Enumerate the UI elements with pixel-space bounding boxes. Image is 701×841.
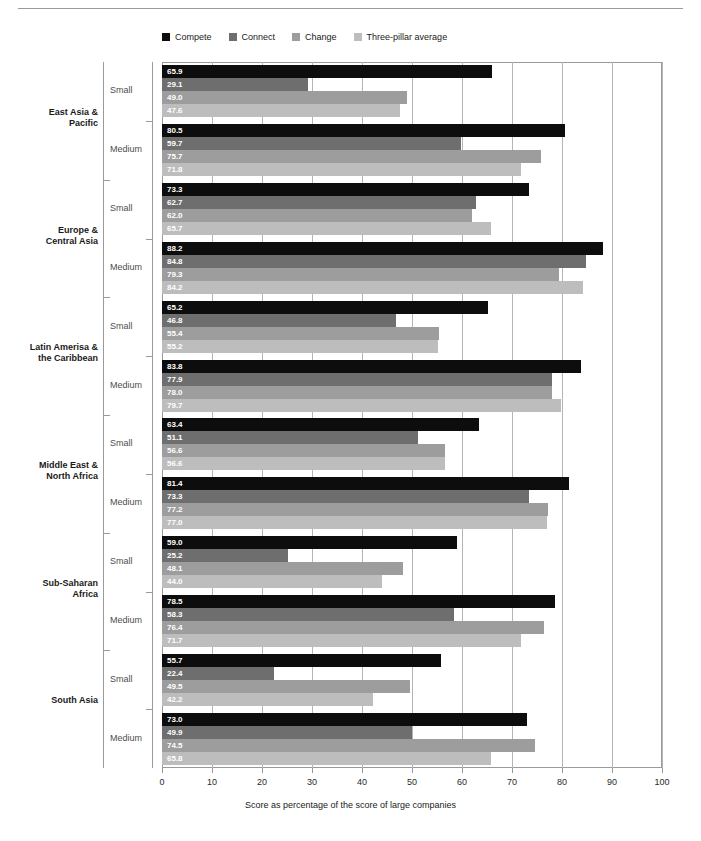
bar-row: 59.0 [162, 536, 662, 549]
bar-row: 56.6 [162, 444, 662, 457]
bar-connect [162, 137, 461, 150]
bar-three-pillar-average [162, 399, 561, 412]
bar-value-label: 47.6 [167, 104, 183, 117]
bar-change [162, 562, 403, 575]
region-label: Europe &Central Asia [0, 225, 98, 247]
size-tick [146, 474, 153, 475]
size-axis-line [152, 62, 153, 768]
bar-value-label: 78.0 [167, 386, 183, 399]
bar-three-pillar-average [162, 163, 521, 176]
bar-row: 74.5 [162, 739, 662, 752]
bar-value-label: 59.7 [167, 137, 183, 150]
bar-row: 81.4 [162, 477, 662, 490]
bar-row: 56.6 [162, 457, 662, 470]
x-tick-label: 80 [542, 777, 582, 787]
bar-connect [162, 78, 308, 91]
bar-compete [162, 124, 565, 137]
x-tick-label: 100 [642, 777, 682, 787]
x-tick [512, 768, 513, 773]
bar-value-label: 48.1 [167, 562, 183, 575]
bar-value-label: 83.8 [167, 360, 183, 373]
legend-swatch-icon [162, 33, 170, 41]
bar-value-label: 55.2 [167, 340, 183, 353]
x-tick [562, 768, 563, 773]
bar-connect [162, 373, 552, 386]
size-tick [146, 356, 153, 357]
bar-value-label: 88.2 [167, 242, 183, 255]
bar-value-label: 65.8 [167, 752, 183, 765]
x-tick [312, 768, 313, 773]
bar-change [162, 386, 552, 399]
bar-change [162, 91, 407, 104]
bar-value-label: 44.0 [167, 575, 183, 588]
bar-value-label: 62.7 [167, 196, 183, 209]
bar-row: 59.7 [162, 137, 662, 150]
bar-row: 84.2 [162, 281, 662, 294]
x-tick [362, 768, 363, 773]
bar-three-pillar-average [162, 752, 491, 765]
bar-compete [162, 477, 569, 490]
bar-row: 25.2 [162, 549, 662, 562]
bar-value-label: 49.9 [167, 726, 183, 739]
bar-change [162, 739, 535, 752]
bar-row: 58.3 [162, 608, 662, 621]
bar-value-label: 65.7 [167, 222, 183, 235]
x-tick-label: 10 [192, 777, 232, 787]
size-label-small: Small [110, 203, 150, 214]
bar-row: 71.8 [162, 163, 662, 176]
bar-row: 65.7 [162, 222, 662, 235]
region-tick [103, 533, 110, 534]
bar-row: 62.7 [162, 196, 662, 209]
region-label-line: Middle East & [0, 460, 98, 471]
bar-value-label: 78.5 [167, 595, 183, 608]
region-label-line: South Asia [0, 695, 98, 706]
bar-three-pillar-average [162, 104, 400, 117]
bar-row: 73.3 [162, 490, 662, 503]
bar-row: 78.5 [162, 595, 662, 608]
size-label-medium: Medium [110, 380, 150, 391]
running-header-text [18, 0, 683, 7]
bar-row: 80.5 [162, 124, 662, 137]
size-label-medium: Medium [110, 144, 150, 155]
size-label-medium: Medium [110, 615, 150, 626]
bar-connect [162, 490, 529, 503]
bar-row: 65.8 [162, 752, 662, 765]
bar-row: 48.1 [162, 562, 662, 575]
x-tick-label: 20 [242, 777, 282, 787]
x-tick [662, 768, 663, 773]
bar-compete [162, 360, 581, 373]
bar-compete [162, 536, 457, 549]
bar-row: 73.3 [162, 183, 662, 196]
x-tick [262, 768, 263, 773]
bar-change [162, 209, 472, 222]
bar-value-label: 29.1 [167, 78, 183, 91]
bar-row: 55.2 [162, 340, 662, 353]
bar-value-label: 51.1 [167, 431, 183, 444]
legend-label: Change [305, 33, 337, 42]
size-tick [146, 592, 153, 593]
bar-row: 73.0 [162, 713, 662, 726]
bar-three-pillar-average [162, 634, 521, 647]
bar-value-label: 80.5 [167, 124, 183, 137]
bar-compete [162, 301, 488, 314]
region-label-line: Latin Amerisa & [0, 342, 98, 353]
x-tick-label: 60 [442, 777, 482, 787]
legend-item-three-pillar-average: Three-pillar average [354, 33, 448, 42]
bar-value-label: 55.7 [167, 654, 183, 667]
bar-row: 22.4 [162, 667, 662, 680]
bar-value-label: 75.7 [167, 150, 183, 163]
size-label-medium: Medium [110, 262, 150, 273]
bar-connect [162, 431, 418, 444]
bar-value-label: 22.4 [167, 667, 183, 680]
bar-row: 62.0 [162, 209, 662, 222]
bar-value-label: 81.4 [167, 477, 183, 490]
bar-row: 49.0 [162, 91, 662, 104]
bar-compete [162, 183, 529, 196]
bar-value-label: 71.7 [167, 634, 183, 647]
legend-swatch-icon [292, 33, 300, 41]
bar-compete [162, 654, 441, 667]
size-label-medium: Medium [110, 733, 150, 744]
bar-value-label: 71.8 [167, 163, 183, 176]
region-tick [103, 415, 110, 416]
bar-value-label: 56.6 [167, 444, 183, 457]
